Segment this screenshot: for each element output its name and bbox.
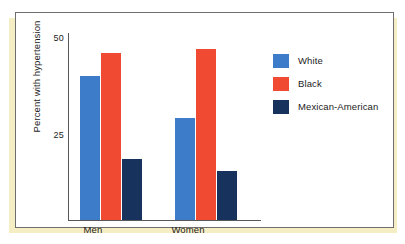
chart-legend: White Black Mexican-American	[273, 49, 378, 118]
legend-swatch-black-icon	[273, 77, 289, 91]
bar-women-white	[175, 118, 195, 220]
legend-item-mexican-american: Mexican-American	[273, 95, 378, 118]
bars-layer	[69, 33, 261, 220]
bar-men-white	[80, 76, 100, 220]
bar-men-black	[101, 53, 121, 220]
y-tick-label-25: 25	[38, 130, 64, 140]
legend-item-white: White	[273, 49, 378, 72]
legend-label-white: White	[298, 55, 323, 66]
x-category-label-women: Women	[153, 224, 223, 235]
y-axis-title: Percent with hypertension	[31, 2, 42, 152]
legend-swatch-mexican-american-icon	[273, 100, 289, 114]
bar-women-mexican-american	[217, 171, 237, 220]
legend-swatch-white-icon	[273, 54, 289, 68]
x-axis-line	[68, 220, 261, 221]
bar-women-black	[196, 49, 216, 220]
legend-label-mexican-american: Mexican-American	[298, 101, 378, 112]
chart-figure: 50 25 Percent with hypertension Men Wome…	[0, 0, 405, 244]
bar-men-mexican-american	[122, 159, 142, 220]
legend-item-black: Black	[273, 72, 378, 95]
legend-label-black: Black	[298, 78, 322, 89]
x-category-label-men: Men	[58, 224, 128, 235]
figure-frame: 50 25 Percent with hypertension Men Wome…	[15, 12, 394, 228]
y-tick-label-50: 50	[38, 33, 64, 43]
